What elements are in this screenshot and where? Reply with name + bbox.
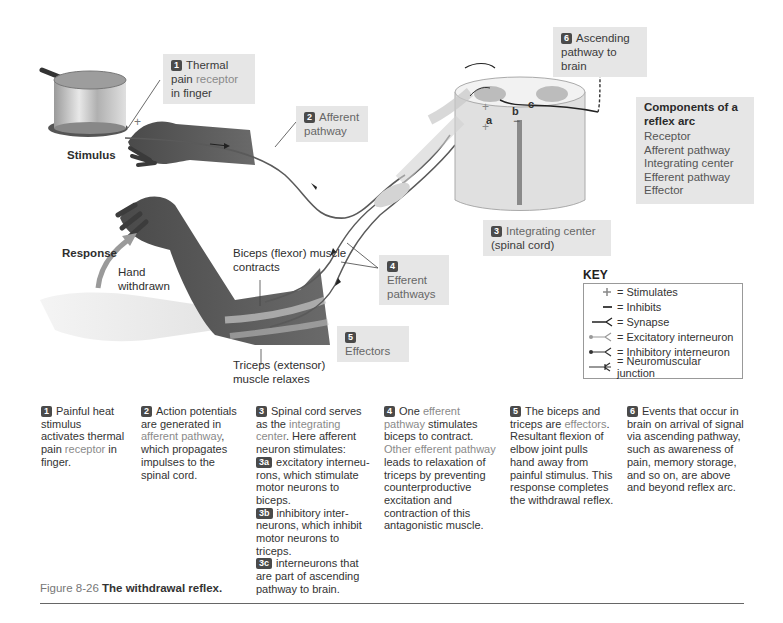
callout-integrating-center: 3Integrating center (spinal cord) xyxy=(483,220,611,256)
key-item-synapse: = Synapse xyxy=(584,314,742,329)
component-item: Efferent pathway xyxy=(644,171,748,185)
key-legend: = Stimulates = Inhibits = Synapse = Exci… xyxy=(583,283,743,379)
step-5-text: 5The biceps and triceps are effectors. R… xyxy=(510,405,614,507)
svg-text:c: c xyxy=(528,98,534,110)
key-title: KEY xyxy=(583,268,608,282)
dorsal-root-ganglion xyxy=(371,178,414,212)
caption-divider xyxy=(40,603,744,604)
figure-caption: Figure 8-26 The withdrawal reflex. xyxy=(40,582,222,594)
callout-effectors: 5Effectors xyxy=(337,326,409,362)
response-label: Response xyxy=(62,246,117,260)
step-badge: 1 xyxy=(171,60,182,71)
reflex-arc-components-panel: Components of a reflex arc Receptor Affe… xyxy=(636,97,754,204)
hand-withdrawn-label: Hand withdrawn xyxy=(118,265,180,293)
component-item: Integrating center xyxy=(644,157,748,171)
inhibitory-interneuron-icon xyxy=(588,347,614,357)
svg-text:−: − xyxy=(513,114,520,128)
key-item-neuromuscular-junction: = Neuromuscular junction xyxy=(584,359,742,374)
hot-pot-stimulus xyxy=(42,70,128,137)
svg-text:+: + xyxy=(134,115,141,129)
synapse-icon xyxy=(588,317,614,327)
components-title: Components of a reflex arc xyxy=(644,101,748,128)
component-item: Afferent pathway xyxy=(644,144,748,158)
component-item: Receptor xyxy=(644,130,748,144)
svg-text:+: + xyxy=(482,120,489,134)
ghost-hand xyxy=(40,293,215,342)
plus-icon xyxy=(588,287,614,297)
triceps-label: Triceps (extensor) muscle relaxes xyxy=(233,358,355,386)
neuromuscular-junction-icon xyxy=(588,361,614,373)
figure-title: The withdrawal reflex. xyxy=(102,582,222,594)
minus-icon xyxy=(588,302,614,312)
key-item-excitatory: = Excitatory interneuron xyxy=(584,329,742,344)
step-4-text: 4One efferent pathway stimulates biceps … xyxy=(384,405,496,532)
step-2-text: 2Action potentials are generated in affe… xyxy=(141,405,241,481)
callout-efferent-pathways: 4Efferent pathways xyxy=(379,255,449,305)
step-6-text: 6Events that occur in brain on arrival o… xyxy=(627,405,745,494)
callout-afferent-pathway: 2Afferent pathway xyxy=(296,106,368,142)
component-item: Effector xyxy=(644,184,748,198)
callout-ascending-pathway: 6Ascending pathway to brain xyxy=(553,27,647,77)
key-item-stimulates: = Stimulates xyxy=(584,284,742,299)
callout-thermal-receptor: 1Thermal pain receptor in finger xyxy=(163,54,255,104)
spinal-cord-section: a b c + + − xyxy=(400,63,604,211)
step-3-text: 3Spinal cord serves as the integrating c… xyxy=(256,405,371,596)
figure-number: Figure 8-26 xyxy=(40,582,99,594)
stimulus-label: Stimulus xyxy=(67,148,116,162)
excitatory-interneuron-icon xyxy=(588,332,614,342)
svg-text:+: + xyxy=(482,100,489,114)
step-1-text: 1Painful heat stimulus activates thermal… xyxy=(41,405,127,469)
key-item-inhibits: = Inhibits xyxy=(584,299,742,314)
biceps-label: Biceps (flexor) muscle contracts xyxy=(233,246,348,274)
